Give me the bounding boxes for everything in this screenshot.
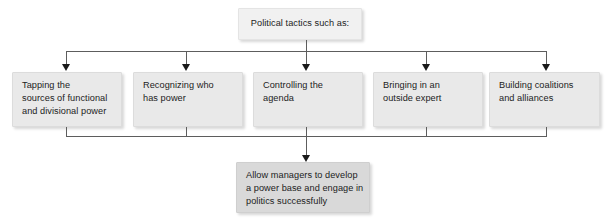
tactic-box-controlling-agenda: Controlling the agenda — [253, 72, 363, 127]
drop-line-3 — [306, 51, 307, 65]
arrow-down-icon-5 — [542, 64, 550, 71]
tactic-line: Tapping the — [22, 79, 112, 92]
tactic-box-recognizing-power: Recognizing who has power — [133, 72, 243, 127]
tactic-line: Controlling the — [263, 79, 353, 92]
tactic-line: Bringing in an — [383, 79, 473, 92]
arrow-down-icon-outcome — [302, 155, 310, 162]
tactic-line: and divisional power — [22, 105, 112, 118]
bus-to-outcome-stem — [306, 136, 307, 156]
tactic-line: and alliances — [499, 92, 590, 105]
tactic-line: Building coalitions — [499, 79, 590, 92]
tactic-box-tapping-sources: Tapping the sources of functional and di… — [12, 72, 122, 127]
outcome-line: Allow managers to develop — [246, 169, 360, 182]
tactic-line: Recognizing who — [143, 79, 233, 92]
diagram-canvas: Political tactics such as: Tapping the s… — [0, 0, 612, 224]
tactic-line: sources of functional — [22, 92, 112, 105]
drop-line-5 — [546, 51, 547, 65]
arrow-down-icon-2 — [182, 64, 190, 71]
drop-line-2 — [186, 51, 187, 65]
arrow-down-icon-4 — [422, 64, 430, 71]
tactic-line: outside expert — [383, 92, 473, 105]
outcome-line: politics successfully — [246, 195, 360, 208]
outcome-box: Allow managers to develop a power base a… — [236, 162, 370, 213]
title-box-text: Political tactics such as: — [251, 17, 349, 30]
title-to-bus-stem — [306, 40, 307, 51]
tactic-line: agenda — [263, 92, 353, 105]
outcome-line: a power base and engage in — [246, 182, 360, 195]
tactic-line: has power — [143, 92, 233, 105]
arrow-down-icon-1 — [62, 64, 70, 71]
title-box: Political tactics such as: — [238, 8, 362, 40]
drop-line-1 — [66, 51, 67, 65]
drop-line-4 — [426, 51, 427, 65]
arrow-down-icon-3 — [302, 64, 310, 71]
tactic-box-building-coalitions: Building coalitions and alliances — [489, 72, 600, 127]
tactic-box-outside-expert: Bringing in an outside expert — [373, 72, 483, 127]
